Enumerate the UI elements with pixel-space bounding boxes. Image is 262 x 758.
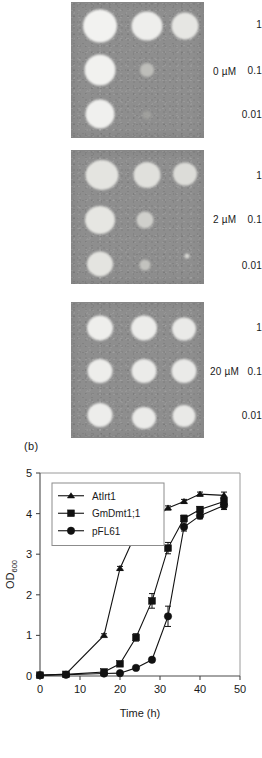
colony-spot xyxy=(87,251,113,276)
colony-spot xyxy=(132,407,156,429)
x-axis-label: Time (h) xyxy=(120,707,161,719)
colony-spot xyxy=(172,359,197,383)
data-marker xyxy=(132,664,139,671)
data-marker xyxy=(181,515,188,522)
plate-image-20um xyxy=(71,302,204,438)
y-tick-label: 3 xyxy=(26,548,32,560)
dilution-label: 0.01 xyxy=(200,410,262,421)
colony-spot xyxy=(173,405,196,427)
data-marker xyxy=(62,671,69,678)
colony-spot xyxy=(85,206,115,234)
dilution-label: 0.01 xyxy=(200,109,262,120)
data-marker xyxy=(36,672,43,679)
x-tick-label: 50 xyxy=(234,683,246,695)
y-axis-label: OD600 xyxy=(4,560,19,589)
dilution-label: 1 xyxy=(200,19,262,30)
colony-spot xyxy=(172,13,199,40)
data-marker xyxy=(164,613,171,620)
growth-curve-chart: 01234501020304050Time (h)OD600AtIrt1GmDm… xyxy=(0,462,262,758)
x-tick-label: 30 xyxy=(154,683,166,695)
dilution-label: 1 xyxy=(200,170,262,181)
colony-spot xyxy=(142,111,151,119)
chart-svg: 01234501020304050Time (h)OD600AtIrt1GmDm… xyxy=(0,462,262,758)
y-tick-label: 5 xyxy=(26,467,32,479)
data-marker xyxy=(180,523,187,530)
data-marker xyxy=(100,670,107,677)
figure-root: 1 0.1 0.01 0 µM 1 0.1 0.01 2 µM xyxy=(0,0,262,758)
y-tick-label: 0 xyxy=(26,670,32,682)
y-tick-label: 2 xyxy=(26,589,32,601)
x-tick-label: 40 xyxy=(194,683,206,695)
x-tick-label: 10 xyxy=(74,683,86,695)
colony-spot xyxy=(173,163,197,186)
data-marker xyxy=(68,510,75,517)
colony-spot xyxy=(140,260,151,271)
colony-spot xyxy=(172,318,196,341)
colony-spot xyxy=(86,99,115,128)
plate-block-20um: 1 0.1 0.01 20 µM xyxy=(0,300,262,440)
plate-block-0um: 1 0.1 0.01 0 µM xyxy=(0,0,262,138)
legend-label: AtIrt1 xyxy=(92,491,116,502)
legend-label: GmDmt1;1 xyxy=(92,508,141,519)
x-tick-label: 20 xyxy=(114,683,126,695)
plate-image-2um xyxy=(71,150,204,284)
data-marker xyxy=(67,527,74,534)
colony-spot xyxy=(140,63,154,77)
colony-spot xyxy=(133,162,160,188)
dilution-label: 1 xyxy=(200,322,262,333)
panel-b-label: (b) xyxy=(24,440,38,452)
data-marker xyxy=(133,634,140,641)
colony-spot xyxy=(132,359,157,383)
y-tick-label: 4 xyxy=(26,508,32,520)
colony-spot xyxy=(85,160,118,190)
colony-spot xyxy=(131,12,162,41)
plate-block-2um: 1 0.1 0.01 2 µM xyxy=(0,148,262,286)
colony-spot xyxy=(88,359,113,383)
colony-spot xyxy=(85,55,116,86)
data-marker xyxy=(117,661,124,668)
colony-spot xyxy=(83,10,117,43)
colony-spot xyxy=(88,403,113,427)
data-marker xyxy=(220,502,227,509)
concentration-label: 0 µM xyxy=(213,66,236,77)
concentration-label: 2 µM xyxy=(213,214,236,225)
concentration-label: 20 µM xyxy=(210,366,239,377)
y-axis-label-text: OD600 xyxy=(4,560,19,589)
colony-spot xyxy=(87,315,113,340)
dilution-label: 0.01 xyxy=(200,260,262,271)
legend-label: pFL61 xyxy=(92,526,121,537)
y-tick-label: 1 xyxy=(26,629,32,641)
colony-spot xyxy=(131,315,157,340)
data-marker xyxy=(116,669,123,676)
x-tick-label: 0 xyxy=(37,683,43,695)
plate-image-0um xyxy=(71,2,204,138)
data-marker xyxy=(148,656,155,663)
colony-spot xyxy=(137,211,154,228)
data-marker xyxy=(149,598,156,605)
data-marker xyxy=(165,545,172,552)
colony-spot xyxy=(184,253,189,258)
data-marker xyxy=(196,512,203,519)
data-marker xyxy=(100,632,107,637)
